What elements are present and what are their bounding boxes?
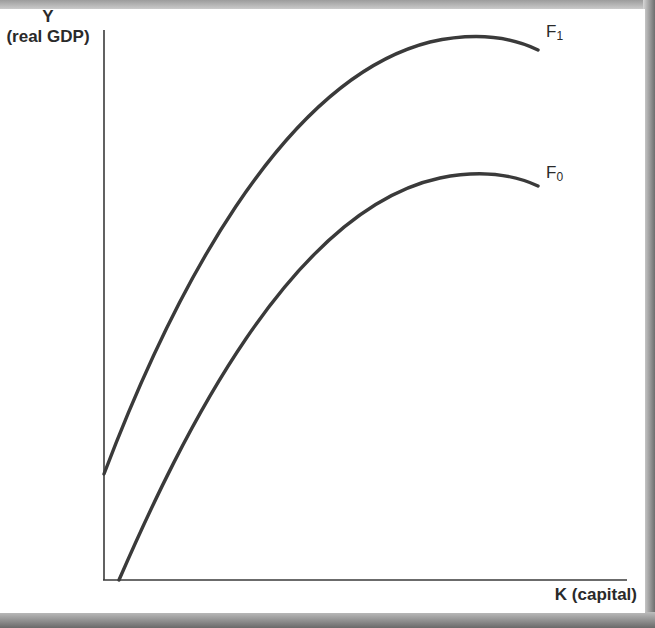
- curve-label-f1-subscript: 1: [556, 29, 563, 43]
- curve-label-f0: F0: [546, 163, 563, 184]
- y-axis-symbol: Y: [4, 7, 92, 27]
- production-function-plot: [0, 9, 645, 613]
- diagram-card: [0, 9, 645, 613]
- y-axis-description: (real GDP): [4, 27, 92, 47]
- frame-bottom-shadow: [0, 612, 655, 628]
- curve-f1: [104, 36, 538, 474]
- curve-label-f0-subscript: 0: [556, 170, 563, 184]
- y-axis-label: Y (real GDP): [4, 7, 92, 47]
- curve-label-f1: F1: [546, 22, 563, 43]
- x-axis-label: K (capital): [555, 585, 637, 605]
- curve-f0: [119, 174, 538, 580]
- curve-label-f1-letter: F: [546, 22, 556, 41]
- curve-label-f0-letter: F: [546, 163, 556, 182]
